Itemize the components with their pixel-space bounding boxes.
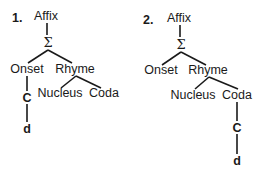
affix-label: Affix [34,10,58,23]
affix-label: Affix [167,12,191,25]
consonant-slot: C [232,122,241,135]
nucleus-label: Nucleus [170,89,215,102]
onset-label: Onset [10,63,43,76]
coda-label: Coda [89,87,119,100]
diagram-number: 2. [143,14,153,27]
sigma-symbol: Σ [43,36,52,49]
rhyme-label: Rhyme [55,63,95,76]
consonant-slot: C [22,92,31,105]
onset-label: Onset [144,64,177,77]
diagram-number: 1. [12,12,22,25]
segment-d: d [233,155,241,168]
sigma-symbol: Σ [176,38,185,51]
segment-d: d [23,123,31,136]
coda-label: Coda [222,89,252,102]
nucleus-label: Nucleus [37,87,82,100]
rhyme-label: Rhyme [188,64,228,77]
